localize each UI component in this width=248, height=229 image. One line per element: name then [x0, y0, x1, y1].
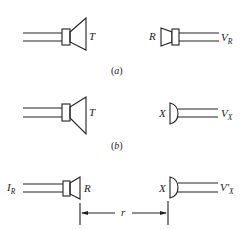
reciprocity-calibration-diagram: T R VR (a) T X VX	[0, 0, 248, 229]
loudspeaker-t-icon	[23, 18, 86, 50]
input-current-ir: IR	[6, 181, 16, 196]
microphone-label-x: X	[158, 107, 167, 119]
distance-dimension: r	[80, 201, 168, 225]
loudspeaker-t-icon	[23, 97, 86, 134]
output-voltage-vr: VR	[221, 31, 233, 46]
transducer-label-r: R	[148, 30, 156, 42]
arrowhead-right-icon	[160, 211, 167, 215]
panel-a: T R VR (a)	[23, 18, 233, 77]
speaker-label-t: T	[89, 30, 96, 42]
microphone-icon	[170, 177, 218, 198]
output-voltage-vx-prime: V'X	[220, 181, 234, 196]
reciprocal-transducer-icon	[161, 28, 219, 46]
caption-b: (b)	[111, 140, 123, 152]
arrowhead-left-icon	[81, 211, 88, 215]
panel-b: T X VX (b)	[23, 97, 233, 152]
transducer-label-r: R	[83, 182, 91, 194]
reciprocal-transducer-icon	[23, 177, 80, 199]
distance-label-r: r	[121, 206, 126, 218]
microphone-icon	[170, 103, 218, 124]
panel-c: IR R X V'X r	[6, 177, 234, 225]
speaker-label-t: T	[89, 106, 96, 118]
caption-a: (a)	[111, 65, 123, 77]
microphone-label-x: X	[158, 182, 167, 194]
output-voltage-vx: VX	[221, 107, 233, 122]
